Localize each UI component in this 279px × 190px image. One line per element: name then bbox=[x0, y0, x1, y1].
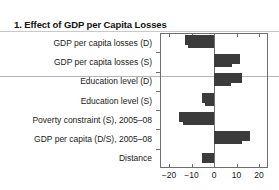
x-axis-tick bbox=[237, 33, 238, 37]
y-axis-labels: GDP per capita losses (D)GDP per capita … bbox=[0, 33, 156, 168]
bar bbox=[214, 57, 232, 67]
x-axis-labels: −20−1001020 bbox=[160, 170, 268, 184]
y-axis-label: Poverty constraint (S), 2005–08 bbox=[32, 115, 152, 125]
y-axis-tick bbox=[156, 110, 160, 111]
bar bbox=[183, 115, 215, 125]
chart-panel: 1. Effect of GDP per Capita Losses GDP p… bbox=[0, 0, 279, 190]
x-axis-tick bbox=[169, 33, 170, 37]
bar bbox=[214, 76, 231, 86]
x-axis-tick-label: −10 bbox=[184, 170, 198, 180]
y-axis-label: Distance bbox=[119, 153, 152, 163]
x-axis-tick-label: 0 bbox=[212, 170, 217, 180]
x-axis-tick bbox=[169, 164, 170, 168]
bar bbox=[188, 38, 214, 48]
x-axis-tick bbox=[214, 164, 215, 168]
x-axis-tick-label: 10 bbox=[232, 170, 241, 180]
y-axis-label: GDP per capita losses (S) bbox=[54, 57, 152, 67]
y-axis-label: GDP per capita (D/S), 2005–08 bbox=[34, 134, 152, 144]
y-axis-tick bbox=[156, 149, 160, 150]
bar bbox=[202, 153, 214, 163]
page-title: 1. Effect of GDP per Capita Losses bbox=[14, 19, 167, 30]
x-axis-tick-label: −20 bbox=[162, 170, 176, 180]
y-axis-tick bbox=[156, 52, 160, 53]
x-axis-tick-label: 20 bbox=[254, 170, 263, 180]
x-axis-tick bbox=[237, 164, 238, 168]
x-axis-tick bbox=[259, 33, 260, 37]
y-axis-label: GDP per capita losses (D) bbox=[53, 38, 152, 48]
y-axis-tick bbox=[156, 91, 160, 92]
x-axis-tick bbox=[214, 33, 215, 37]
y-axis-tick bbox=[156, 72, 160, 73]
x-axis-tick bbox=[259, 164, 260, 168]
y-axis-tick bbox=[156, 129, 160, 130]
x-axis-tick bbox=[192, 164, 193, 168]
title-divider bbox=[0, 31, 279, 32]
y-axis-label: Education level (S) bbox=[81, 96, 152, 106]
bar bbox=[214, 134, 242, 144]
y-axis-label: Education level (D) bbox=[80, 76, 152, 86]
bar bbox=[205, 95, 214, 105]
plot-area bbox=[160, 33, 268, 168]
